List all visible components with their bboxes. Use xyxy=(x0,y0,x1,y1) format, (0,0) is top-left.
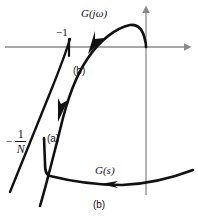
intersection-a-label: (a) xyxy=(47,134,59,144)
g-s-curve xyxy=(44,138,193,185)
intersection-b-label: (b) xyxy=(73,66,85,76)
fraction-denominator: N xyxy=(15,142,27,155)
g-s-label: G(s) xyxy=(95,165,115,176)
figure-caption: (b) xyxy=(0,200,198,210)
critical-point-label: −1 xyxy=(56,27,68,38)
g-jomega-curve xyxy=(40,25,146,206)
fraction-numerator: 1 xyxy=(16,128,26,141)
g-jomega-label: G(jω) xyxy=(81,8,107,19)
nyquist-describing-function-figure: G(jω) G(s) −1 (b) (a) − 1 N (b) xyxy=(0,0,198,219)
minus-sign: − xyxy=(6,134,13,149)
minus-one-over-n-locus xyxy=(10,39,70,192)
minus-one-over-n-label: − 1 N xyxy=(6,128,27,155)
fraction: 1 N xyxy=(15,128,27,155)
plot-canvas xyxy=(0,0,198,219)
